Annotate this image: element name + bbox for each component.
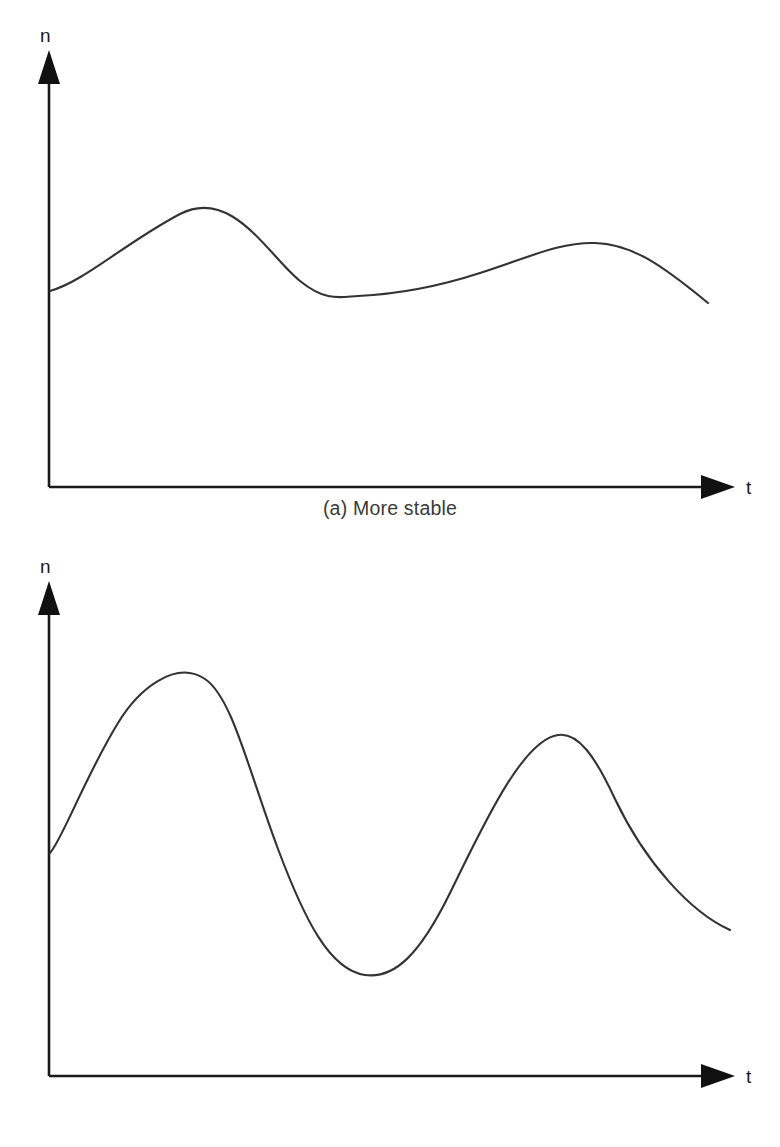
figure-page: n t (a) More stable n t (b) Less stable [0,0,780,1147]
chart-b-data-curve [50,673,730,976]
chart-a-x-axis-arrowhead [701,475,735,499]
chart-panel-a: n t (a) More stable [0,0,780,545]
chart-a-data-curve [50,208,708,303]
chart-a-caption: (a) More stable [0,497,780,520]
chart-b-plot: n t [0,545,780,1147]
chart-a-y-axis-label: n [40,25,51,46]
chart-a-y-axis-arrowhead [38,50,60,84]
chart-b-y-axis-arrowhead [38,581,60,615]
chart-a-x-axis-label: t [746,477,752,498]
chart-b-x-axis-arrowhead [701,1064,735,1088]
chart-panel-b: n t (b) Less stable [0,545,780,1147]
chart-b-y-axis-label: n [40,556,51,577]
chart-b-x-axis-label: t [746,1066,752,1087]
chart-a-plot: n t [0,0,780,545]
